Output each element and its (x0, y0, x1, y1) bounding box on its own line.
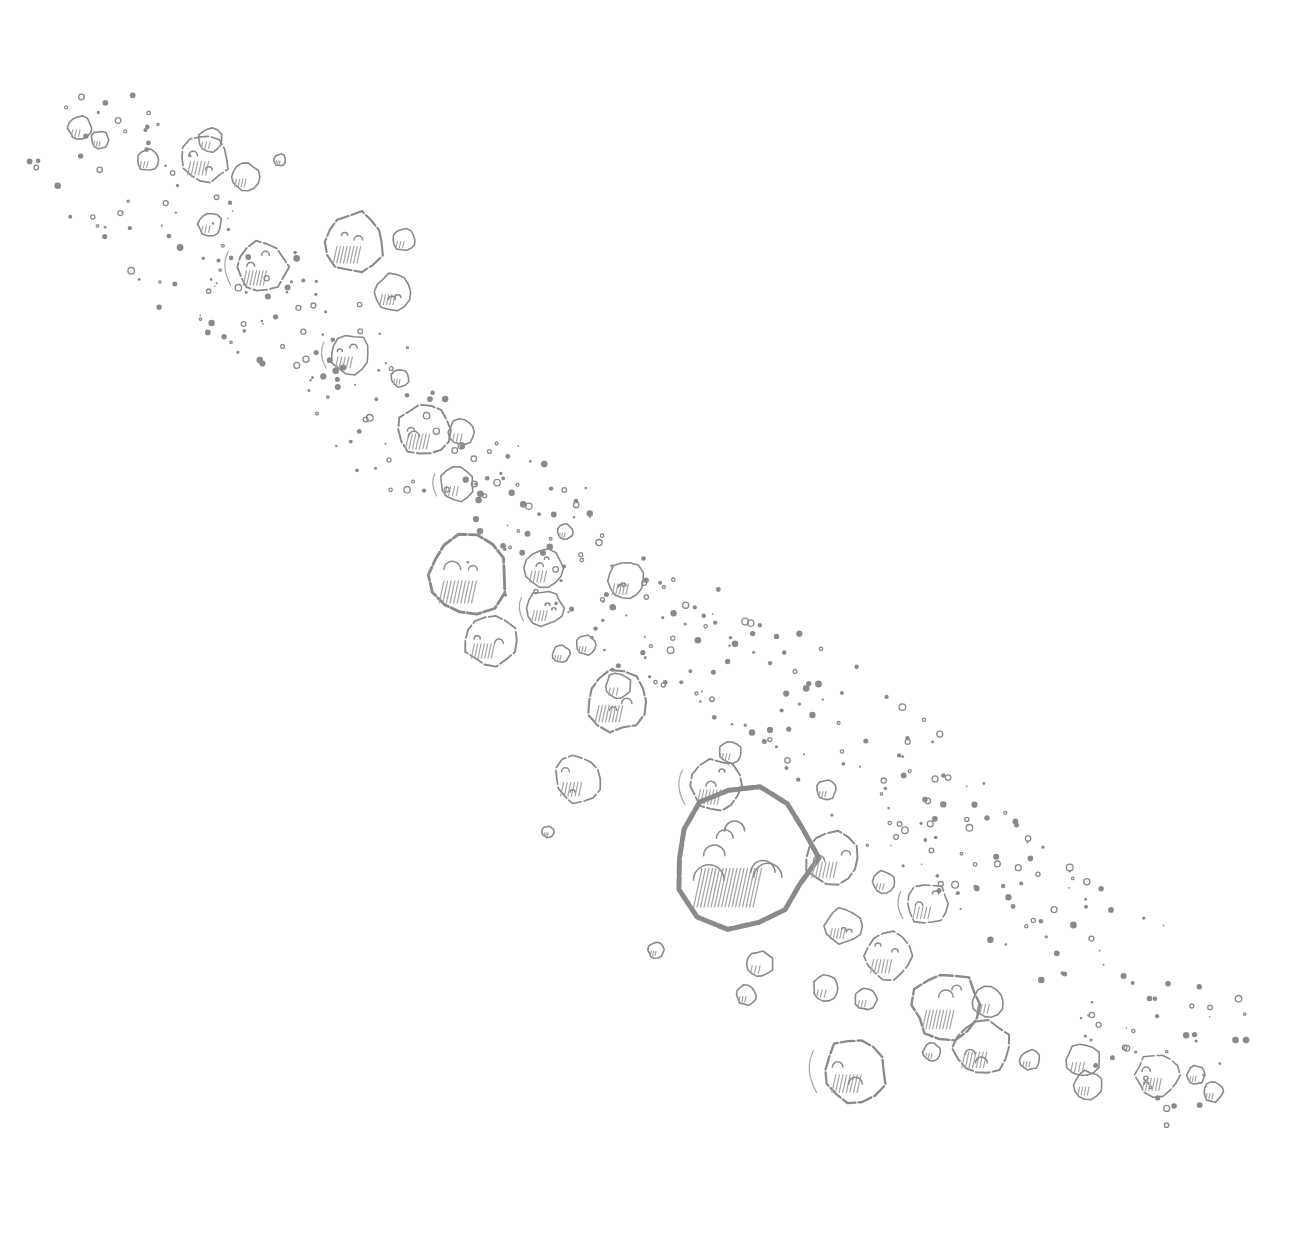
debris-dot (466, 561, 469, 564)
debris-dot (335, 384, 341, 390)
debris-dot (144, 147, 149, 152)
debris-dot (587, 510, 593, 516)
debris-dot (1028, 856, 1034, 862)
debris-dot (1005, 894, 1011, 900)
debris-dot (614, 607, 616, 609)
debris-dot (208, 320, 214, 326)
debris-dot (177, 244, 184, 251)
debris-dot (679, 680, 683, 684)
debris-dot (1163, 925, 1165, 927)
debris-dot (103, 100, 109, 106)
debris-dot (798, 702, 801, 705)
debris-dot (1080, 1017, 1083, 1020)
debris-dot (885, 695, 889, 699)
debris-dot (1054, 950, 1060, 956)
debris-dot (966, 785, 968, 787)
debris-dot (562, 564, 566, 568)
debris-dot (161, 225, 163, 227)
debris-dot (729, 636, 733, 640)
debris-dot (809, 712, 815, 718)
debris-dot (890, 845, 892, 847)
debris-dot (585, 487, 588, 490)
debris-dot (1068, 887, 1070, 889)
debris-dot (315, 280, 318, 283)
debris-dot (830, 813, 833, 816)
asteroid-belt-illustration (0, 0, 1298, 1251)
debris-dot (725, 659, 730, 664)
debris-dot (167, 234, 172, 239)
debris-dot (560, 579, 563, 582)
debris-dot (901, 773, 907, 779)
debris-dot (625, 614, 627, 616)
debris-dot (796, 631, 802, 637)
debris-dot (689, 669, 693, 673)
debris-dot (83, 133, 88, 138)
debris-dot (554, 602, 558, 606)
debris-dot (1134, 1051, 1137, 1054)
debris-dot (863, 739, 868, 744)
debris-dot (265, 294, 271, 300)
debris-dot (212, 222, 214, 224)
debris-dot (357, 429, 362, 434)
debris-dot (1131, 981, 1135, 985)
debris-dot (780, 708, 784, 712)
debris-dot (971, 802, 977, 808)
debris-dot (775, 745, 778, 748)
debris-dot (1155, 1014, 1159, 1018)
debris-dot (815, 681, 822, 688)
debris-dot (507, 524, 509, 526)
debris-dot (477, 528, 483, 534)
debris-dot (1039, 919, 1044, 924)
debris-dot (340, 364, 346, 370)
debris-dot (695, 637, 702, 644)
debris-dot (551, 512, 557, 518)
debris-dot (749, 729, 755, 735)
debris-dot (217, 258, 221, 262)
debris-dot (993, 854, 999, 860)
debris-dot (529, 460, 532, 463)
debris-dot (1005, 943, 1008, 946)
debris-dot (1093, 1063, 1098, 1068)
debris-dot (1084, 898, 1087, 901)
debris-dot (1165, 981, 1171, 987)
debris-dot (138, 278, 141, 281)
debris-dot (1197, 984, 1202, 989)
debris-dot (537, 512, 541, 516)
debris-dot (956, 891, 960, 895)
debris-dot (884, 787, 888, 791)
debris-dot (661, 616, 664, 619)
debris-dot (463, 477, 469, 483)
debris-dot (307, 389, 310, 392)
debris-dot (758, 623, 762, 627)
debris-dot (375, 397, 379, 401)
debris-dot (1084, 1034, 1087, 1037)
debris-dot (593, 626, 597, 630)
debris-dot (176, 184, 179, 187)
debris-dot (782, 650, 787, 655)
debris-dot (430, 391, 435, 396)
debris-dot (648, 675, 651, 678)
debris-dot (379, 333, 381, 335)
debris-dot (1013, 819, 1019, 825)
debris-dot (897, 753, 901, 757)
debris-dot (392, 373, 394, 375)
debris-dot (228, 201, 232, 205)
debris-dot (128, 226, 132, 230)
debris-dot (286, 291, 289, 294)
debris-dot (354, 384, 356, 386)
debris-dot (1209, 1016, 1211, 1018)
debris-dot (887, 807, 890, 810)
debris-dot (175, 211, 177, 213)
debris-dot (332, 368, 339, 375)
debris-dot (259, 360, 265, 366)
debris-dot (1091, 1001, 1093, 1003)
debris-dot (311, 376, 314, 379)
debris-dot (921, 863, 923, 865)
debris-dot (214, 285, 216, 287)
debris-dot (301, 279, 305, 283)
debris-dot (1019, 881, 1023, 885)
debris-dot (349, 440, 353, 444)
debris-dot (658, 581, 662, 585)
debris-dot (701, 690, 703, 692)
debris-dot (842, 762, 846, 766)
